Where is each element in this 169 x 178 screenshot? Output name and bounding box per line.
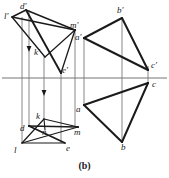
vertex-dot-c-prime xyxy=(147,69,149,71)
figure-drawing-canvas xyxy=(0,0,169,178)
edge-d-prime-to-e-prime xyxy=(26,10,61,73)
label-m-prime: m' xyxy=(70,21,78,30)
label-d-prime: d' xyxy=(20,2,26,11)
figure-caption: (b) xyxy=(0,160,169,171)
edge-a-to-c xyxy=(84,83,148,105)
label-e-prime: e' xyxy=(62,66,68,75)
edge-l-prime-to-d-prime xyxy=(12,10,26,17)
label-b-prime: b' xyxy=(117,6,123,15)
edge-a-prime-to-c-prime xyxy=(84,38,148,70)
vertex-dot-c xyxy=(147,82,149,84)
label-l: l xyxy=(14,146,17,155)
vertex-dot-a xyxy=(83,104,85,106)
edge-b-prime-to-c-prime xyxy=(122,18,148,70)
arrow-down-left-icon xyxy=(27,46,32,52)
edge-a-prime-to-b-prime xyxy=(84,18,122,38)
front-view-plane-group xyxy=(12,10,75,73)
top-view-plane-group xyxy=(22,119,78,143)
label-l-prime: l' xyxy=(4,12,8,21)
front-view-triangle-group xyxy=(84,18,148,70)
label-a: a xyxy=(76,105,81,114)
edge-d-to-e xyxy=(29,126,65,143)
label-a-prime: a' xyxy=(75,33,81,42)
descriptive-geometry-figure: d' l' m' a' b' c' k' e' c a b k d n m l … xyxy=(0,0,169,178)
top-view-triangle-group xyxy=(84,83,148,142)
edge-b-to-c xyxy=(122,83,148,142)
label-c-prime: c' xyxy=(151,61,157,70)
label-k: k xyxy=(36,112,40,121)
vertex-dot-a-prime xyxy=(83,37,85,39)
vertex-dot-d xyxy=(28,125,30,127)
arrow-down-middle-icon xyxy=(42,90,47,96)
label-d: d xyxy=(20,124,25,133)
edge-a-to-b xyxy=(84,105,122,142)
label-k-prime: k' xyxy=(34,48,40,57)
label-c: c xyxy=(152,80,156,89)
label-b: b xyxy=(121,143,126,152)
label-m: m xyxy=(74,128,81,137)
label-n: n xyxy=(42,128,47,137)
edge-d-prime-to-m-prime xyxy=(26,10,75,30)
label-e: e xyxy=(66,144,70,153)
edge-l-to-m xyxy=(22,127,78,143)
